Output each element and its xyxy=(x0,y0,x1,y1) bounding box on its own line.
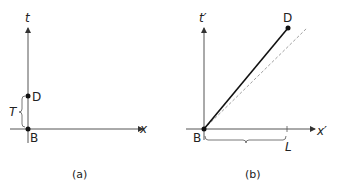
light-cone-line xyxy=(204,28,307,129)
x-axis-label: x xyxy=(139,122,148,136)
event-d-label: D xyxy=(32,90,41,104)
t-axis-label: t xyxy=(25,11,31,25)
interval-label: T xyxy=(9,105,18,119)
event-d-dot xyxy=(26,94,31,99)
spacetime-diagrams: t x D B T (a) t′ x′ D B L (b) xyxy=(0,0,340,185)
t-prime-axis-label: t′ xyxy=(199,11,207,25)
caption-b: (b) xyxy=(245,168,261,181)
event-b-dot xyxy=(202,127,207,132)
event-d-label: D xyxy=(283,11,292,25)
event-b-label: B xyxy=(30,131,38,145)
x-prime-axis-label: x′ xyxy=(316,124,327,138)
event-b-label: B xyxy=(193,131,201,145)
event-d-dot xyxy=(286,26,291,31)
worldline-bd xyxy=(204,28,288,129)
distance-label: L xyxy=(285,140,292,154)
distance-brace xyxy=(205,136,286,143)
panel-a: t x D B T (a) xyxy=(9,11,148,181)
caption-a: (a) xyxy=(72,168,87,181)
interval-brace xyxy=(19,96,25,127)
panel-b: t′ x′ D B L (b) xyxy=(186,11,327,181)
